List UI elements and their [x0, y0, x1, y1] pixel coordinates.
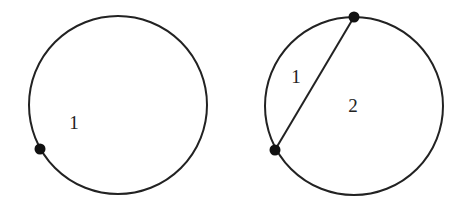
diagram-right: 1 2: [265, 12, 443, 196]
point: [270, 145, 281, 156]
diagram-left: 1: [29, 16, 207, 194]
chord: [275, 17, 354, 150]
point: [35, 144, 46, 155]
region-label: 1: [291, 66, 301, 87]
circle: [29, 16, 207, 194]
region-label: 1: [69, 112, 79, 133]
region-label: 2: [348, 95, 358, 116]
point: [349, 12, 360, 23]
circle-division-diagram: 1 1 2: [0, 0, 466, 210]
